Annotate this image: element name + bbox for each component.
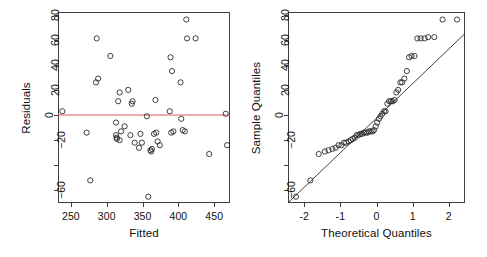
data-point	[207, 151, 212, 156]
data-point	[60, 109, 65, 114]
data-point	[146, 194, 151, 199]
data-point	[167, 109, 172, 114]
residuals-xtick-label: 300	[98, 210, 116, 222]
qq-xtick	[449, 203, 450, 207]
residuals-xtick-label: 250	[62, 210, 80, 222]
data-point	[225, 143, 230, 148]
data-point	[184, 17, 189, 22]
qq-xtick-label: 0	[374, 210, 380, 222]
data-point	[179, 116, 184, 121]
data-point	[184, 36, 189, 41]
qq-ytick-label: −60	[285, 181, 297, 199]
residuals-xtick-label: 350	[134, 210, 152, 222]
data-point	[178, 80, 183, 85]
qq-xtick	[377, 203, 378, 207]
residuals-ytick	[54, 165, 58, 166]
data-point	[169, 68, 174, 73]
residuals-xaxis-title: Fitted	[58, 227, 230, 239]
qq-ytick-label: −20	[285, 131, 297, 149]
data-point	[116, 99, 121, 104]
qq-ytick-label: 40	[279, 59, 291, 71]
qq-xtick-label: 2	[446, 210, 452, 222]
data-point	[144, 114, 149, 119]
residuals-ytick-label: −20	[55, 131, 67, 149]
normal-qq-panel: -2-1012−60−20020406080 Theoretical Quant…	[244, 0, 487, 257]
residuals-xtick-label: 450	[205, 210, 223, 222]
data-point	[88, 178, 93, 183]
residuals-xtick	[178, 203, 179, 207]
qq-xtick-label: -2	[299, 210, 309, 222]
figure-container: 250300350400450−60−20020406080 Fitted Re…	[0, 0, 487, 257]
data-point	[118, 129, 123, 134]
residuals-yaxis-title: Residuals	[20, 82, 32, 133]
qq-ytick-label: 0	[273, 112, 285, 118]
residuals-xtick	[71, 203, 72, 207]
qq-xtick-label: -1	[336, 210, 346, 222]
data-point	[223, 111, 228, 116]
residuals-xtick	[143, 203, 144, 207]
residuals-ytick-label: 80	[49, 9, 61, 21]
data-point	[94, 36, 99, 41]
data-point	[84, 130, 89, 135]
residuals-ytick-label: 40	[49, 59, 61, 71]
qq-ytick	[284, 165, 288, 166]
residuals-xtick	[214, 203, 215, 207]
data-point	[117, 90, 122, 95]
data-point	[132, 140, 137, 145]
data-point	[113, 120, 118, 125]
residuals-vs-fitted-panel: 250300350400450−60−20020406080 Fitted Re…	[0, 0, 244, 257]
qq-ytick-label: 60	[279, 34, 291, 46]
qq-xtick	[304, 203, 305, 207]
residuals-ytick-label: −60	[55, 181, 67, 199]
qq-yaxis-title: Sample Quantiles	[250, 61, 262, 153]
data-point	[153, 97, 158, 102]
qq-xtick-label: 1	[410, 210, 416, 222]
data-point	[404, 68, 409, 73]
data-point	[316, 151, 321, 156]
data-point	[308, 178, 313, 183]
data-point	[126, 87, 131, 92]
data-point	[138, 131, 143, 136]
data-point	[108, 53, 113, 58]
data-point	[128, 133, 133, 138]
residuals-ytick-label: 60	[49, 34, 61, 46]
data-point	[139, 140, 144, 145]
residuals-ytick-label: 20	[49, 84, 61, 96]
qq-xaxis-title: Theoretical Quantiles	[288, 227, 465, 239]
qq-xtick	[340, 203, 341, 207]
qq-ytick-label: 20	[279, 84, 291, 96]
residuals-xtick-label: 400	[169, 210, 187, 222]
data-point	[432, 35, 437, 40]
residuals-xtick	[107, 203, 108, 207]
qq-xtick	[413, 203, 414, 207]
data-point	[454, 17, 459, 22]
residuals-ytick-label: 0	[43, 112, 55, 118]
qq-ytick-label: 80	[279, 9, 291, 21]
data-point	[168, 55, 173, 60]
data-point	[122, 124, 127, 129]
data-point	[440, 17, 445, 22]
data-point	[193, 36, 198, 41]
data-point	[136, 145, 141, 150]
